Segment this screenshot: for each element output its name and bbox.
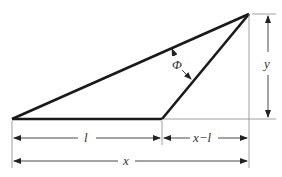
height-label: y [262, 56, 270, 71]
offset-segment-label: x−l [192, 130, 212, 145]
angle-label: Φ [172, 57, 182, 72]
base-segment-label: l [84, 130, 88, 145]
triangle-shape [12, 14, 249, 119]
extension-lines [12, 14, 276, 168]
triangle-diagram: y l x−l x Φ [0, 0, 282, 177]
total-width-label: x [122, 153, 129, 168]
